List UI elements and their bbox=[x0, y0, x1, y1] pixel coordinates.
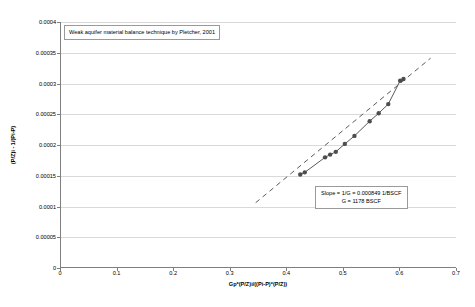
chart-title-box: Weak aquifer material balance technique … bbox=[64, 25, 220, 40]
data-point bbox=[334, 150, 338, 154]
data-point bbox=[386, 102, 390, 106]
x-axis-tick-label: 0.4 bbox=[282, 270, 290, 277]
x-axis-tick-label: 0.6 bbox=[396, 270, 404, 277]
x-axis-tick-label: 0.1 bbox=[113, 270, 121, 277]
plot-area bbox=[60, 22, 456, 268]
x-axis-title: Gp*(P/Z)i/((Pi-P)*(P/Z)) bbox=[60, 281, 456, 287]
x-axis-tick-label: 0 bbox=[58, 270, 61, 277]
x-axis-tick-label: 0.2 bbox=[169, 270, 177, 277]
slope-annotation-box: Slope = 1/G = 0.000849 1/BSCF G = 1178 B… bbox=[315, 186, 408, 209]
y-axis-title-wrapper: (P/Z)i - 1/(Pi-P) bbox=[6, 22, 20, 268]
data-point bbox=[343, 142, 347, 146]
data-point bbox=[303, 170, 307, 174]
data-point bbox=[377, 111, 381, 115]
x-axis-tick-label: 0.3 bbox=[226, 270, 234, 277]
x-axis-tick-label: 0.5 bbox=[339, 270, 347, 277]
data-series-canvas bbox=[61, 22, 456, 267]
y-axis-title: (P/Z)i - 1/(Pi-P) bbox=[10, 126, 16, 164]
slope-line-2: G = 1178 BSCF bbox=[321, 197, 402, 205]
slope-line-1: Slope = 1/G = 0.000849 1/BSCF bbox=[321, 189, 402, 197]
data-point bbox=[323, 155, 327, 159]
data-point bbox=[367, 119, 371, 123]
data-point bbox=[352, 134, 356, 138]
data-point bbox=[298, 172, 302, 176]
x-axis-tick-label: 0.7 bbox=[452, 270, 460, 277]
chart-figure: 00.000050.00010.000150.00020.000250.0003… bbox=[0, 0, 475, 307]
data-point bbox=[401, 77, 405, 81]
data-point bbox=[328, 152, 332, 156]
